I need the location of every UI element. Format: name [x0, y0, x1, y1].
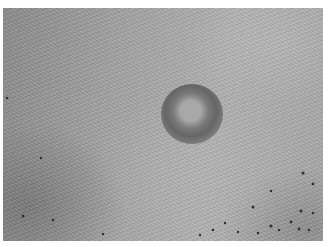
- pore-dots: [3, 8, 323, 241]
- skin-photo: [3, 8, 323, 241]
